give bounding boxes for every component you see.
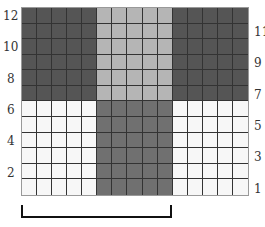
- grid-cell: [158, 39, 173, 55]
- grid-cell: [52, 39, 67, 55]
- grid-cell: [203, 55, 218, 71]
- grid-cell: [97, 86, 112, 102]
- grid-cell: [203, 133, 218, 149]
- left-row-label: 2: [7, 167, 15, 179]
- right-row-label: 7: [254, 89, 262, 101]
- grid-cell: [97, 179, 112, 195]
- grid-cell: [97, 39, 112, 55]
- grid-cell: [37, 133, 52, 149]
- grid-cell: [127, 55, 142, 71]
- grid-cell: [82, 133, 97, 149]
- grid-cell: [37, 39, 52, 55]
- right-row-label: 1: [254, 183, 262, 195]
- grid-cell: [218, 8, 233, 24]
- grid-cell: [67, 39, 82, 55]
- grid-cell: [22, 148, 37, 164]
- grid-cell: [188, 101, 203, 117]
- grid-cell: [158, 148, 173, 164]
- grid-cell: [233, 70, 248, 86]
- grid-cell: [82, 70, 97, 86]
- grid-cell: [37, 70, 52, 86]
- grid-cell: [52, 86, 67, 102]
- grid-cell: [22, 39, 37, 55]
- grid-cell: [37, 86, 52, 102]
- grid-cell: [97, 101, 112, 117]
- grid-cell: [22, 117, 37, 133]
- grid-cell: [97, 117, 112, 133]
- grid-cell: [218, 117, 233, 133]
- right-row-label: 11: [254, 26, 265, 38]
- grid-cell: [67, 179, 82, 195]
- grid-cell: [203, 24, 218, 40]
- grid-cell: [203, 8, 218, 24]
- grid-cell: [37, 164, 52, 180]
- grid-cell: [218, 148, 233, 164]
- grid-cell: [52, 8, 67, 24]
- grid-cell: [143, 39, 158, 55]
- grid-cell: [218, 55, 233, 71]
- grid-cell: [127, 70, 142, 86]
- grid-cell: [218, 24, 233, 40]
- grid-cell: [233, 101, 248, 117]
- left-row-label: 10: [3, 41, 18, 53]
- grid-cell: [22, 24, 37, 40]
- grid-cell: [97, 55, 112, 71]
- grid-cell: [97, 164, 112, 180]
- grid-cell: [52, 24, 67, 40]
- grid-cell: [82, 148, 97, 164]
- grid-cell: [52, 117, 67, 133]
- grid-cell: [52, 70, 67, 86]
- grid-cell: [188, 8, 203, 24]
- right-row-label: 3: [254, 151, 262, 163]
- grid-cell: [112, 133, 127, 149]
- grid-cell: [233, 86, 248, 102]
- grid-cell: [143, 101, 158, 117]
- grid-cell: [203, 101, 218, 117]
- grid-cell: [143, 179, 158, 195]
- grid-cell: [218, 164, 233, 180]
- grid-cell: [127, 148, 142, 164]
- grid-cell: [233, 8, 248, 24]
- grid-cell: [233, 24, 248, 40]
- grid-cell: [233, 148, 248, 164]
- grid-cell: [127, 8, 142, 24]
- grid-cell: [97, 133, 112, 149]
- grid-cell: [82, 117, 97, 133]
- grid-cell: [203, 164, 218, 180]
- grid-cell: [233, 39, 248, 55]
- grid-cell: [67, 101, 82, 117]
- grid-cell: [173, 164, 188, 180]
- grid-cell: [82, 164, 97, 180]
- grid-cell: [143, 70, 158, 86]
- grid-cell: [203, 70, 218, 86]
- grid-cell: [173, 101, 188, 117]
- grid-cell: [173, 133, 188, 149]
- grid-cell: [127, 164, 142, 180]
- grid-cell: [112, 55, 127, 71]
- grid-cell: [233, 117, 248, 133]
- grid-cell: [158, 86, 173, 102]
- grid-cell: [173, 39, 188, 55]
- grid-cell: [143, 133, 158, 149]
- grid-cell: [112, 148, 127, 164]
- grid-cell: [218, 101, 233, 117]
- grid-cell: [112, 8, 127, 24]
- grid-cell: [158, 8, 173, 24]
- grid-cell: [218, 39, 233, 55]
- grid-cell: [22, 101, 37, 117]
- grid-cell: [67, 55, 82, 71]
- grid-cell: [67, 70, 82, 86]
- grid-cell: [67, 8, 82, 24]
- grid-cell: [97, 70, 112, 86]
- right-row-label: 9: [254, 57, 262, 69]
- grid-cell: [143, 86, 158, 102]
- grid-cell: [158, 55, 173, 71]
- grid-cell: [82, 39, 97, 55]
- grid-cell: [188, 117, 203, 133]
- grid-cell: [82, 8, 97, 24]
- grid-cell: [188, 133, 203, 149]
- grid-cell: [158, 70, 173, 86]
- grid-cell: [158, 179, 173, 195]
- grid-cell: [22, 86, 37, 102]
- grid-cell: [127, 24, 142, 40]
